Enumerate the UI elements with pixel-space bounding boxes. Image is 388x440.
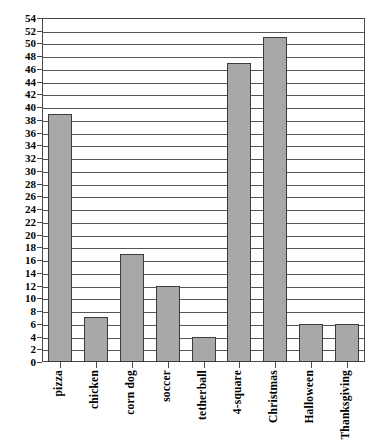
y-tick-mark: [37, 18, 42, 19]
y-tick-mark: [37, 286, 42, 287]
y-tick-label: 32: [25, 153, 36, 164]
y-tick-label: 24: [25, 204, 36, 215]
x-tick-label: corn dog: [125, 370, 137, 415]
y-tick-label: 42: [25, 89, 36, 100]
y-tick-label: 50: [25, 38, 36, 49]
y-tick-label: 18: [25, 242, 36, 253]
y-tick-mark: [37, 349, 42, 350]
y-tick-label: 10: [25, 293, 36, 304]
y-tick-mark: [37, 107, 42, 108]
y-tick-mark: [37, 145, 42, 146]
y-tick-mark: [37, 247, 42, 248]
y-tick-label: 36: [25, 127, 36, 138]
y-tick-label: 4: [31, 331, 37, 342]
x-tick-label: 4-square: [232, 370, 244, 414]
x-tick-mark: [311, 362, 312, 368]
y-tick-label: 48: [25, 51, 36, 62]
x-tick-mark: [132, 362, 133, 368]
y-tick-mark: [37, 337, 42, 338]
bar: [227, 63, 251, 362]
y-tick-mark: [37, 133, 42, 134]
x-tick-label: Halloween: [304, 370, 316, 424]
y-tick-mark: [37, 362, 42, 363]
x-tick-mark: [60, 362, 61, 368]
y-tick-mark: [37, 209, 42, 210]
x-tick-label: tetherball: [197, 370, 209, 420]
x-tick-label: soccer: [161, 370, 173, 402]
y-tick-label: 52: [25, 25, 36, 36]
x-tick-mark: [204, 362, 205, 368]
y-tick-mark: [37, 56, 42, 57]
y-tick-mark: [37, 222, 42, 223]
x-tick-label: Thanksgiving: [340, 370, 352, 440]
y-tick-mark: [37, 298, 42, 299]
y-tick-mark: [37, 324, 42, 325]
y-tick-mark: [37, 260, 42, 261]
x-tick-mark: [347, 362, 348, 368]
bar: [299, 324, 323, 362]
y-tick-mark: [37, 235, 42, 236]
bar: [263, 37, 287, 362]
bar: [84, 317, 108, 362]
y-tick-label: 20: [25, 229, 36, 240]
y-tick-label: 34: [25, 140, 36, 151]
y-tick-mark: [37, 311, 42, 312]
y-tick-label: 30: [25, 165, 36, 176]
x-tick-label: Christmas: [268, 370, 280, 423]
y-tick-label: 46: [25, 63, 36, 74]
y-tick-label: 14: [25, 267, 36, 278]
bar: [335, 324, 359, 362]
y-tick-mark: [37, 94, 42, 95]
y-tick-mark: [37, 31, 42, 32]
y-tick-mark: [37, 120, 42, 121]
y-axis: 0246810121416182022242628303234363840424…: [0, 18, 36, 362]
y-tick-mark: [37, 158, 42, 159]
y-tick-mark: [37, 184, 42, 185]
bar: [120, 254, 144, 362]
x-tick-mark: [96, 362, 97, 368]
y-tick-label: 26: [25, 191, 36, 202]
y-tick-label: 38: [25, 114, 36, 125]
y-tick-mark: [37, 196, 42, 197]
bars-layer: [42, 18, 365, 362]
y-tick-label: 2: [31, 344, 37, 355]
x-tick-label: pizza: [53, 370, 65, 397]
y-tick-mark: [37, 273, 42, 274]
x-axis: pizzachickencorn dogsoccertetherball4-sq…: [42, 370, 365, 436]
bar: [192, 337, 216, 362]
y-tick-label: 28: [25, 178, 36, 189]
y-tick-label: 16: [25, 255, 36, 266]
y-tick-label: 22: [25, 216, 36, 227]
bar: [48, 114, 72, 362]
y-tick-label: 54: [25, 13, 36, 24]
y-tick-label: 12: [25, 280, 36, 291]
y-tick-mark: [37, 82, 42, 83]
y-tick-mark: [37, 69, 42, 70]
x-tick-label: chicken: [89, 370, 101, 409]
y-tick-label: 8: [31, 306, 37, 317]
y-tick-label: 0: [31, 357, 37, 368]
bar: [156, 286, 180, 362]
y-tick-label: 6: [31, 318, 37, 329]
x-tick-mark: [168, 362, 169, 368]
y-tick-mark: [37, 171, 42, 172]
x-tick-mark: [275, 362, 276, 368]
x-tick-mark: [239, 362, 240, 368]
y-tick-label: 40: [25, 102, 36, 113]
y-tick-label: 44: [25, 76, 36, 87]
y-tick-mark: [37, 43, 42, 44]
